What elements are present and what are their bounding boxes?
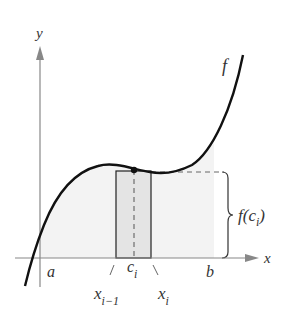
a-label: a	[47, 263, 55, 280]
c-i-label: ci	[127, 258, 137, 281]
riemann-rectangle-diagram: y x f a b ci xi−1 xi f(ci)	[0, 0, 291, 314]
height-brace	[222, 172, 233, 258]
x-prev-tick	[110, 265, 114, 275]
x-prev-label: xi−1	[93, 284, 119, 308]
sample-point	[131, 167, 137, 173]
y-axis-label: y	[34, 25, 43, 41]
x-i-label: xi	[157, 284, 169, 308]
b-label: b	[206, 263, 214, 280]
function-label: f	[222, 56, 230, 76]
x-axis-arrow-icon	[245, 254, 259, 262]
height-label: f(ci)	[238, 206, 265, 229]
x-axis-label: x	[263, 250, 271, 266]
y-axis-arrow-icon	[36, 46, 44, 60]
x-i-tick	[153, 265, 158, 275]
